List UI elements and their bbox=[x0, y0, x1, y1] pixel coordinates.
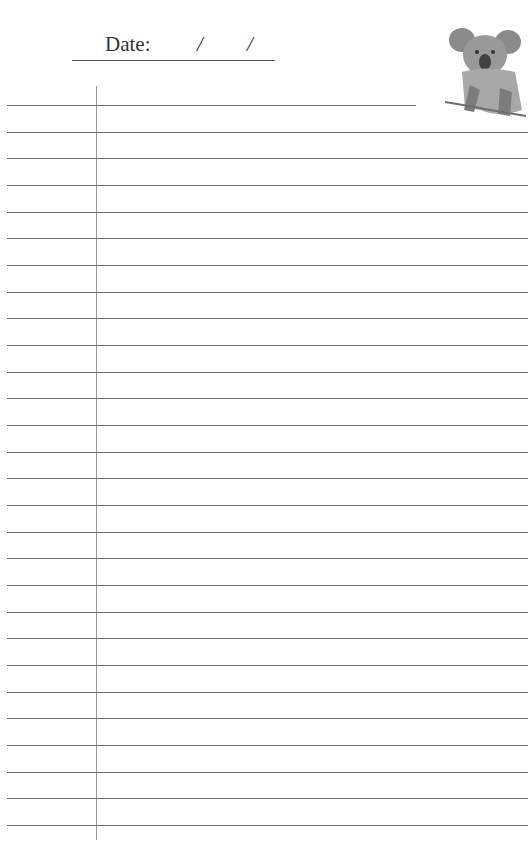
ruled-line bbox=[7, 212, 528, 213]
ruled-line bbox=[7, 345, 528, 346]
ruled-line bbox=[7, 692, 528, 693]
ruled-line bbox=[7, 292, 528, 293]
ruled-line bbox=[7, 585, 528, 586]
ruled-line bbox=[7, 772, 528, 773]
ruled-line bbox=[7, 612, 528, 613]
ruled-line bbox=[7, 558, 528, 559]
ruled-line bbox=[7, 505, 528, 506]
date-label: Date: bbox=[105, 32, 150, 57]
ruled-line bbox=[7, 532, 528, 533]
ruled-line bbox=[7, 745, 528, 746]
ruled-line bbox=[7, 638, 528, 639]
ruled-line bbox=[7, 372, 528, 373]
ruled-line bbox=[7, 798, 528, 799]
ruled-line bbox=[7, 665, 528, 666]
ruled-line bbox=[7, 132, 528, 133]
ruled-line bbox=[7, 238, 528, 239]
ruled-line bbox=[7, 478, 528, 479]
ruled-line bbox=[7, 265, 528, 266]
margin-line bbox=[96, 86, 97, 840]
ruled-line bbox=[7, 425, 528, 426]
ruled-line bbox=[7, 718, 528, 719]
ruled-line bbox=[7, 318, 528, 319]
ruled-line bbox=[7, 825, 528, 826]
ruled-line bbox=[7, 105, 416, 106]
date-field[interactable]: Date: / / bbox=[72, 28, 275, 61]
ruled-line bbox=[7, 452, 528, 453]
ruled-line bbox=[7, 398, 528, 399]
koala-illustration-icon bbox=[440, 10, 528, 120]
ruled-line bbox=[7, 158, 528, 159]
ruled-line bbox=[7, 185, 528, 186]
date-separator: / bbox=[197, 32, 203, 57]
date-separator: / bbox=[247, 32, 253, 57]
